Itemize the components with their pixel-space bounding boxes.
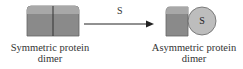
caption-line: dimer (142, 53, 243, 64)
symmetric-dimer-caption: Symmetric protein dimer (0, 42, 100, 64)
arrow-label: S (117, 5, 123, 16)
reaction-arrow-icon (82, 18, 154, 28)
asymmetric-dimer-caption: Asymmetric protein dimer (142, 42, 243, 64)
caption-line: dimer (0, 53, 100, 64)
asymmetric-dimer-shape (164, 4, 220, 38)
symmetric-dimer-shape (25, 4, 81, 38)
caption-line: Asymmetric protein (142, 42, 243, 53)
caption-line: Symmetric protein (0, 42, 100, 53)
ligand-label: S (197, 15, 207, 26)
